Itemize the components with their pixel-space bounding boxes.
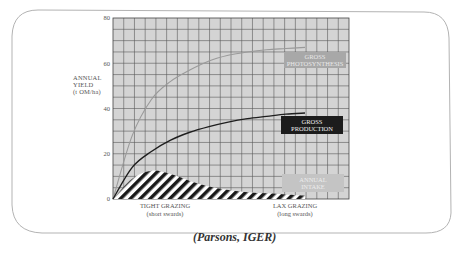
x-label-lax-grazing: LAX GRAZING (long swards) [260, 202, 330, 217]
x-label-sub: (long swards) [260, 210, 330, 218]
y-axis-label-line: (t OM/ha) [73, 88, 102, 95]
label-annual-intake: ANNUAL INTAKE [282, 174, 344, 192]
label-line: GROSS [305, 53, 326, 60]
y-tick-20: 20 [98, 150, 110, 157]
label-line: PRODUCTION [291, 125, 333, 132]
figure-caption: (Parsons, IGER) [193, 230, 276, 245]
y-axis-label: ANNUAL YIELD (t OM/ha) [73, 74, 102, 95]
y-tick-60: 60 [98, 60, 110, 67]
label-gross-production: GROSS PRODUCTION [281, 116, 343, 134]
x-label-line: LAX GRAZING [260, 202, 330, 210]
label-line: PHOTOSYNTHESIS [287, 60, 344, 67]
x-label-line: TIGHT GRAZING [130, 202, 200, 210]
x-label-tight-grazing: TIGHT GRAZING (short swards) [130, 202, 200, 217]
label-line: ANNUAL [299, 176, 326, 183]
y-axis-label-line: YIELD [73, 81, 102, 88]
label-line: GROSS [302, 118, 323, 125]
y-tick-80: 80 [98, 14, 110, 21]
label-line: INTAKE [301, 183, 325, 190]
label-gross-photosynthesis: GROSS PHOTOSYNTHESIS [284, 52, 346, 68]
chart-figure [0, 0, 466, 262]
y-axis-label-line: ANNUAL [73, 74, 102, 81]
x-label-sub: (short swards) [130, 210, 200, 218]
y-tick-0: 0 [98, 195, 110, 202]
y-tick-40: 40 [98, 105, 110, 112]
